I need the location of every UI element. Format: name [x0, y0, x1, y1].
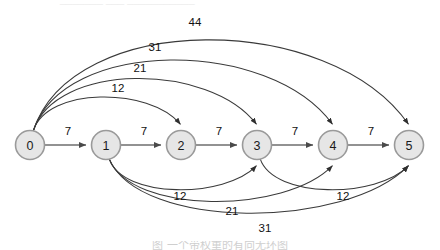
- edge-weight-0-5: 44: [189, 16, 202, 28]
- edge-weight-2-3: 7: [216, 125, 222, 137]
- top-cropped-text: _______ ___ ___________: [60, 0, 195, 5]
- edge-weight-0-3: 21: [134, 62, 147, 74]
- graph-edge-0-2: [33, 97, 180, 131]
- node-label-0: 0: [27, 139, 34, 153]
- node-label-3: 3: [254, 139, 261, 153]
- graph-edge-3-5: [260, 159, 408, 190]
- node-label-5: 5: [406, 139, 413, 153]
- node-label-1: 1: [103, 139, 110, 153]
- node-label-2: 2: [178, 139, 185, 153]
- top-cropped-text-strip: _______ ___ ___________: [0, 0, 440, 6]
- edge-weight-0-1: 7: [65, 125, 71, 137]
- edge-weight-1-5: 31: [259, 222, 272, 234]
- graph-node-5[interactable]: 5: [395, 131, 424, 160]
- edge-weight-0-2: 12: [112, 82, 125, 94]
- graph-node-0[interactable]: 0: [16, 131, 45, 160]
- edge-weight-1-3: 12: [174, 190, 187, 202]
- edge-weight-0-4: 31: [149, 41, 162, 53]
- edge-weight-4-5: 7: [368, 125, 374, 137]
- figure-caption-strip: 图 一个带权重的有向无环图: [0, 241, 440, 250]
- edge-weight-3-4: 7: [292, 125, 298, 137]
- graph-node-3[interactable]: 3: [243, 131, 272, 160]
- graph-node-1[interactable]: 1: [92, 131, 121, 160]
- figure-caption: 图 一个带权重的有向无环图: [0, 241, 440, 250]
- graph-edge-1-4: [109, 159, 332, 202]
- edge-weight-1-4: 21: [226, 205, 239, 217]
- edge-weight-1-2: 7: [141, 125, 147, 137]
- graph-edge-1-5: [109, 159, 408, 213]
- graph-node-2[interactable]: 2: [167, 131, 196, 160]
- node-label-4: 4: [330, 139, 337, 153]
- graph-canvas: 012345 777771221314412213112: [0, 0, 440, 250]
- graph-edge-0-3: [33, 78, 256, 131]
- graph-figure: _______ ___ ___________ 012345 777771221…: [0, 0, 440, 250]
- graph-edge-0-4: [33, 60, 332, 131]
- graph-node-4[interactable]: 4: [319, 131, 348, 160]
- edge-weight-3-5: 12: [337, 190, 350, 202]
